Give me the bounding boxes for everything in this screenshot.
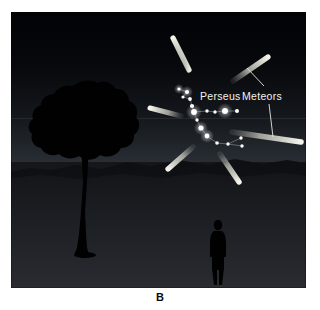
star xyxy=(205,109,208,112)
star xyxy=(191,109,197,115)
star xyxy=(190,104,194,108)
figure-caption: B xyxy=(0,290,320,304)
star xyxy=(235,109,239,113)
figure-root: Perseus Meteors B xyxy=(0,0,320,310)
star xyxy=(222,108,228,114)
label-perseus: Perseus xyxy=(200,90,241,102)
star xyxy=(198,125,203,130)
star xyxy=(239,136,242,139)
illustration-panel: Perseus Meteors xyxy=(11,12,306,288)
star xyxy=(213,110,216,113)
star xyxy=(205,134,210,139)
star xyxy=(215,141,219,145)
foreground-ground xyxy=(11,173,306,288)
label-meteors: Meteors xyxy=(242,90,282,102)
star xyxy=(181,95,184,98)
star xyxy=(226,142,229,145)
star xyxy=(185,90,189,94)
star xyxy=(177,87,180,90)
star xyxy=(240,144,243,147)
star xyxy=(188,97,192,101)
star xyxy=(195,118,198,121)
night-sky-scene: Perseus Meteors xyxy=(11,12,306,288)
